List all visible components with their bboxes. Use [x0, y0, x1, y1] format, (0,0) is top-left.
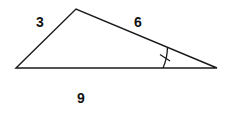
- triangle: [16, 9, 217, 68]
- side-label-top: 6: [134, 14, 142, 30]
- triangle-diagram: 3 6 9: [0, 0, 233, 119]
- side-label-base: 9: [77, 90, 85, 106]
- side-label-left: 3: [36, 14, 44, 30]
- angle-tick-mark: [160, 55, 170, 62]
